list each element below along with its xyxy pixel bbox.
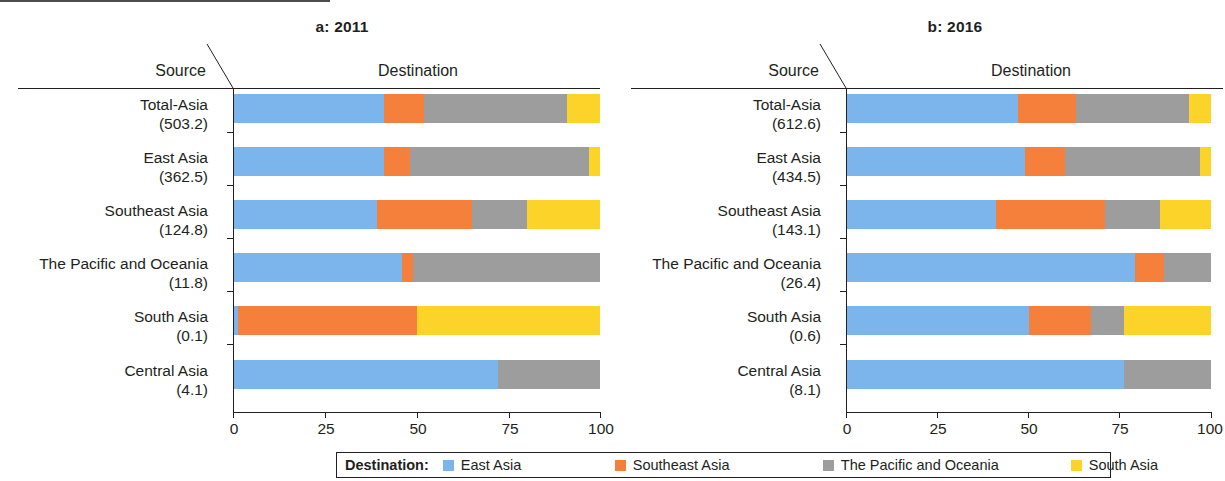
- stacked-bar[interactable]: [847, 200, 1211, 229]
- bar-segment[interactable]: [384, 147, 410, 176]
- bar-segment[interactable]: [996, 200, 1105, 229]
- bar-segment[interactable]: [384, 94, 424, 123]
- bar-segment[interactable]: [1124, 360, 1211, 389]
- bar-segment[interactable]: [847, 147, 1025, 176]
- x-label-75-a: 75: [501, 420, 518, 438]
- bar-row: Central Asia(4.1): [0, 358, 612, 412]
- y-tick-mark: [227, 185, 234, 186]
- row-total-value: (8.1): [625, 380, 821, 399]
- stacked-bar[interactable]: [234, 200, 600, 229]
- panel-2016: b: 2016 Source Destination Total-Asia(61…: [613, 0, 1225, 446]
- bar-row: East Asia(434.5): [613, 145, 1225, 199]
- bar-segment[interactable]: [1065, 147, 1200, 176]
- bar-segment[interactable]: [567, 94, 600, 123]
- bar-segment[interactable]: [498, 360, 600, 389]
- bar-segment[interactable]: [238, 306, 417, 335]
- bar-segment[interactable]: [847, 200, 996, 229]
- bar-segment[interactable]: [410, 147, 589, 176]
- legend-item[interactable]: The Pacific and Oceania: [823, 457, 1071, 473]
- bar-segment[interactable]: [847, 306, 1029, 335]
- row-total-value: (11.8): [12, 273, 208, 292]
- bar-segment[interactable]: [234, 360, 498, 389]
- bar-segment[interactable]: [1025, 147, 1065, 176]
- x-tick-50-b: [1028, 412, 1029, 418]
- bar-segment[interactable]: [234, 147, 384, 176]
- row-category-label: East Asia: [12, 148, 208, 167]
- bar-segment[interactable]: [1160, 200, 1211, 229]
- bar-row: The Pacific and Oceania(11.8): [0, 251, 612, 305]
- legend-item-list: East AsiaSoutheast AsiaThe Pacific and O…: [443, 457, 1158, 473]
- bar-segment[interactable]: [1029, 306, 1091, 335]
- bar-segment[interactable]: [527, 200, 600, 229]
- row-label-group: Southeast Asia(143.1): [625, 201, 821, 239]
- bar-segment[interactable]: [1164, 253, 1211, 282]
- row-category-label: Central Asia: [625, 361, 821, 380]
- bar-segment[interactable]: [424, 94, 567, 123]
- legend-swatch-icon: [1071, 460, 1082, 471]
- bar-segment[interactable]: [1189, 94, 1211, 123]
- row-category-label: The Pacific and Oceania: [12, 254, 208, 273]
- bar-segment[interactable]: [234, 253, 402, 282]
- row-total-value: (143.1): [625, 220, 821, 239]
- row-label-group: East Asia(434.5): [625, 148, 821, 186]
- row-category-label: South Asia: [12, 307, 208, 326]
- stacked-bar[interactable]: [234, 306, 600, 335]
- bar-segment[interactable]: [847, 360, 1124, 389]
- bar-segment[interactable]: [1200, 147, 1211, 176]
- bar-segment[interactable]: [1076, 94, 1189, 123]
- row-total-value: (434.5): [625, 167, 821, 186]
- legend-label: The Pacific and Oceania: [841, 457, 999, 473]
- stacked-bar[interactable]: [847, 94, 1211, 123]
- bar-segment[interactable]: [234, 200, 377, 229]
- bar-segment[interactable]: [377, 200, 472, 229]
- y-tick-mark: [840, 291, 847, 292]
- legend-item[interactable]: South Asia: [1071, 457, 1158, 473]
- bar-row: Total-Asia(503.2): [0, 92, 612, 146]
- stacked-bar[interactable]: [847, 306, 1211, 335]
- bar-segment[interactable]: [1018, 94, 1076, 123]
- stacked-bar[interactable]: [234, 360, 600, 389]
- x-axis-line-b: [846, 412, 1212, 413]
- bar-segment[interactable]: [847, 253, 1135, 282]
- header-rule-b: [631, 88, 1223, 89]
- row-label-group: The Pacific and Oceania(26.4): [625, 254, 821, 292]
- y-tick-mark: [840, 238, 847, 239]
- row-category-label: Southeast Asia: [12, 201, 208, 220]
- row-total-value: (362.5): [12, 167, 208, 186]
- bar-segment[interactable]: [472, 200, 527, 229]
- source-header-a: Source: [18, 62, 206, 80]
- bar-segment[interactable]: [589, 147, 600, 176]
- bar-segment[interactable]: [1091, 306, 1124, 335]
- bar-segment[interactable]: [234, 94, 384, 123]
- bar-segment[interactable]: [1135, 253, 1164, 282]
- row-category-label: Total-Asia: [625, 95, 821, 114]
- bar-segment[interactable]: [402, 253, 413, 282]
- x-label-25-b: 25: [929, 420, 946, 438]
- stacked-bar[interactable]: [847, 360, 1211, 389]
- row-total-value: (124.8): [12, 220, 208, 239]
- legend-item[interactable]: East Asia: [443, 457, 615, 473]
- legend-label: Southeast Asia: [633, 457, 730, 473]
- bar-segment[interactable]: [847, 94, 1018, 123]
- bar-row: South Asia(0.1): [0, 304, 612, 358]
- stacked-bar[interactable]: [847, 253, 1211, 282]
- row-total-value: (0.1): [12, 326, 208, 345]
- x-label-100-b: 100: [1197, 420, 1223, 438]
- bar-segment[interactable]: [413, 253, 600, 282]
- stacked-bar[interactable]: [847, 147, 1211, 176]
- legend-item[interactable]: Southeast Asia: [615, 457, 823, 473]
- legend-swatch-icon: [443, 460, 454, 471]
- row-label-group: East Asia(362.5): [12, 148, 208, 186]
- bar-segment[interactable]: [1124, 306, 1211, 335]
- row-total-value: (0.6): [625, 326, 821, 345]
- legend-label: East Asia: [461, 457, 521, 473]
- panel-title-b: b: 2016: [613, 18, 1213, 36]
- stacked-bar[interactable]: [234, 147, 600, 176]
- bar-row: Central Asia(8.1): [613, 358, 1225, 412]
- row-category-label: Central Asia: [12, 361, 208, 380]
- stacked-bar[interactable]: [234, 94, 600, 123]
- bar-segment[interactable]: [1105, 200, 1160, 229]
- bar-segment[interactable]: [417, 306, 600, 335]
- figure-root: a: 2011 Source Destination Total-Asia(50…: [0, 0, 1225, 481]
- stacked-bar[interactable]: [234, 253, 600, 282]
